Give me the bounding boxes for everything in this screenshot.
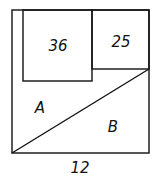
square-25-label: 25	[111, 33, 130, 51]
square-36-label: 36	[48, 37, 67, 55]
side-length-label: 12	[70, 159, 89, 177]
geometry-diagram: 36 25 A B 12	[0, 0, 158, 181]
region-a-label: A	[34, 99, 45, 117]
region-b-label: B	[108, 118, 118, 136]
